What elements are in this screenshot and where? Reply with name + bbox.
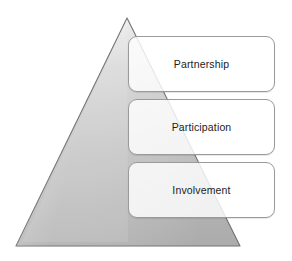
pyramid-diagram: Partnership Participation Involvement <box>0 0 292 261</box>
tier-label-involvement: Involvement <box>172 185 230 196</box>
tier-box-partnership[interactable]: Partnership <box>128 36 275 92</box>
tier-label-participation: Participation <box>172 122 232 133</box>
tier-label-partnership: Partnership <box>174 59 229 70</box>
tier-box-involvement[interactable]: Involvement <box>128 162 275 218</box>
tier-box-participation[interactable]: Participation <box>128 99 275 155</box>
